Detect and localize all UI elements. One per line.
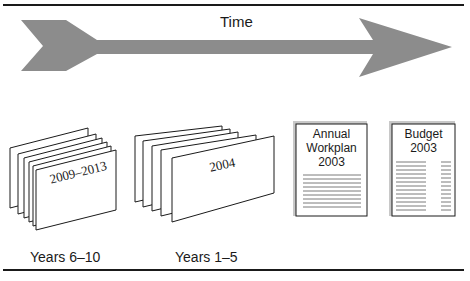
timeline-label: Time [220,13,253,30]
stack-caption-years-1-5: Years 1–5 [175,249,238,265]
doc-title-line: Annual [296,127,367,141]
stack-caption-years-6-10: Years 6–10 [30,249,100,265]
doc-title-line: 2003 [392,141,455,155]
doc-title-line: 2003 [296,155,367,169]
bottom-rule [3,269,464,271]
doc-title-line: Budget [392,127,455,141]
workplan-title: Annual Workplan 2003 [296,127,367,169]
doc-title-line: Workplan [296,141,367,155]
budget-title: Budget 2003 [392,127,455,155]
card-stack-years-1-5 [135,126,274,222]
